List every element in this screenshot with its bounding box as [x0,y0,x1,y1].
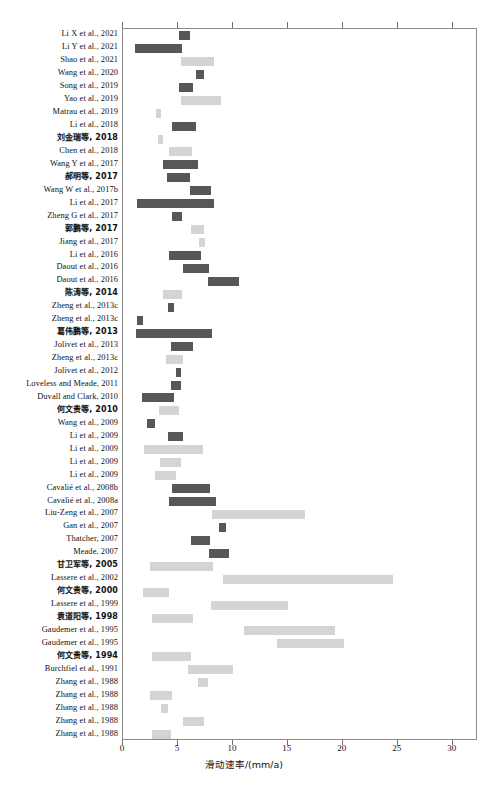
x-axis-tick [397,22,398,28]
bar-quaternary [181,96,221,105]
bar-geodetic [179,83,193,92]
y-axis-label: Lassere et al., 2002 [0,573,118,583]
bar-geodetic [209,549,229,558]
y-axis-label: Li et al., 2016 [0,250,118,260]
y-axis-label: 何文贵等, 2010 [0,405,118,415]
y-axis-label: 何文贵等, 1994 [0,651,118,661]
bar-geodetic [168,432,183,441]
x-axis-title: 滑动速率/(mm/a) [0,757,488,771]
bar-geodetic [135,44,182,53]
bar-geodetic [179,31,190,40]
x-axis-tick [232,22,233,28]
y-axis-label: Li et al., 2009 [0,431,118,441]
bar-quaternary [183,717,204,726]
bar-quaternary [160,458,181,467]
y-axis-label: Zhang et al., 1988 [0,729,118,739]
bar-quaternary [223,575,393,584]
bar-quaternary [161,704,168,713]
slip-rate-chart-figure: 第四纪滑动速率 大地测量滑动速率 Li X et al., 2021Li Y e… [0,0,488,788]
y-axis-label: Zheng et al., 2013c [0,353,118,363]
bar-quaternary [143,588,169,597]
y-axis-label: Li Y et al., 2021 [0,42,118,52]
bar-quaternary [188,665,233,674]
y-axis-label: Li et al., 2009 [0,457,118,467]
y-axis-label: Song et al., 2019 [0,81,118,91]
bar-quaternary [212,510,305,519]
bar-geodetic [172,212,182,221]
y-axis-label: Gaudemer et al., 1995 [0,625,118,635]
y-axis-label: 葛伟鹏等, 2013 [0,327,118,337]
y-axis-label: 郝明等, 2017 [0,172,118,182]
y-axis-label: 郭鹏等, 2017 [0,224,118,234]
plot-area [122,28,477,740]
y-axis-label: Li X et al., 2021 [0,29,118,39]
y-axis-label: Yao et al., 2019 [0,94,118,104]
bar-geodetic [219,523,227,532]
y-axis-label: Chen et al., 2018 [0,146,118,156]
y-axis-label: Liu-Zeng et al., 2007 [0,508,118,518]
x-axis-tick-label: 20 [327,743,357,753]
bar-quaternary [158,135,162,144]
bar-geodetic [136,329,212,338]
x-axis-tick [452,22,453,28]
y-axis-label: 甘卫军等, 2005 [0,560,118,570]
bar-quaternary [159,406,179,415]
bar-quaternary [211,601,288,610]
y-axis-label: Zhang et al., 1988 [0,716,118,726]
y-axis-label: Li et al., 2017 [0,198,118,208]
bar-quaternary [152,614,194,623]
y-axis-label: Jolivet et al., 2013 [0,340,118,350]
x-axis-tick-label: 10 [217,743,247,753]
y-axis-label: Jiang et al., 2017 [0,237,118,247]
y-axis-label: Daout et al., 2016 [0,262,118,272]
y-axis-label: Zhang et al., 1988 [0,677,118,687]
y-axis-label: Wang Y et al., 2017 [0,159,118,169]
y-axis-label: 刘金瑞等, 2018 [0,133,118,143]
y-axis-label: Gan et al., 2007 [0,521,118,531]
y-axis-label: Matrau et al., 2019 [0,107,118,117]
bar-quaternary [191,225,204,234]
y-axis-label: 陈涛等, 2014 [0,288,118,298]
bar-quaternary [152,652,192,661]
bar-geodetic [208,277,240,286]
y-axis-label: Daout et al., 2016 [0,275,118,285]
y-axis-label: Zheng et al., 2013c [0,301,118,311]
x-axis-tick-label: 25 [382,743,412,753]
bar-geodetic [172,122,195,131]
y-axis-label: Shao et al., 2021 [0,55,118,65]
y-axis-label: 袁道阳等, 1998 [0,612,118,622]
y-axis-label: Li et al., 2009 [0,444,118,454]
bar-geodetic [191,536,210,545]
bar-quaternary [150,691,172,700]
bar-geodetic [196,70,205,79]
bar-geodetic [147,419,155,428]
y-axis-label: Gaudemer et al., 1995 [0,638,118,648]
bar-geodetic [172,484,209,493]
y-axis-label: Lassere et al., 1999 [0,599,118,609]
bar-quaternary [144,445,203,454]
bar-quaternary [155,471,176,480]
y-axis-label: Wang et al., 2020 [0,68,118,78]
bar-quaternary [244,626,335,635]
bar-geodetic [167,173,190,182]
y-axis-label: Wang et al., 2009 [0,418,118,428]
bar-geodetic [137,316,142,325]
bar-geodetic [137,199,214,208]
bar-geodetic [190,186,211,195]
y-axis-label: Meade, 2007 [0,547,118,557]
bar-quaternary [152,730,172,739]
bar-quaternary [199,238,206,247]
bar-geodetic [163,160,198,169]
y-axis-label: Cavalié et al., 2008a [0,496,118,506]
y-axis-label: Zhang et al., 1988 [0,703,118,713]
bar-quaternary [163,290,183,299]
y-axis-label: Zheng G et al., 2017 [0,211,118,221]
bar-geodetic [176,368,181,377]
y-axis-label: Wang W et al., 2017b [0,185,118,195]
bar-geodetic [171,342,193,351]
bar-quaternary [166,355,184,364]
y-axis-label: Zhang et al., 1988 [0,690,118,700]
y-axis-label: Cavalié et al., 2008b [0,483,118,493]
y-axis-label: Burchfiel et al., 1991 [0,664,118,674]
x-axis-tick [177,22,178,28]
